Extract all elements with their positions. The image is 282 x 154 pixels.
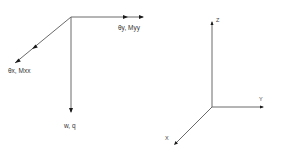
x-axis-label: X bbox=[165, 136, 169, 142]
arrowhead-icon bbox=[69, 108, 73, 113]
diagram-canvas bbox=[0, 0, 282, 154]
right-axes-system bbox=[174, 21, 264, 145]
theta-y-arrow bbox=[71, 15, 144, 19]
w-q-label: w, q bbox=[64, 123, 76, 130]
theta-y-label: θy, Myy bbox=[118, 25, 140, 32]
y-axis bbox=[212, 106, 264, 109]
arrowhead-icon bbox=[211, 21, 214, 25]
arrowhead-icon bbox=[260, 106, 264, 109]
x-axis bbox=[174, 107, 212, 145]
y-axis-label: Y bbox=[259, 97, 263, 103]
arrowhead-icon bbox=[139, 15, 144, 19]
theta-x-label: θx, Mxx bbox=[8, 68, 30, 75]
z-axis bbox=[211, 21, 214, 107]
theta-x-arrow bbox=[15, 17, 71, 63]
arrowhead-icon bbox=[123, 15, 128, 19]
z-axis-label: Z bbox=[216, 18, 219, 24]
w-arrow bbox=[69, 17, 73, 113]
